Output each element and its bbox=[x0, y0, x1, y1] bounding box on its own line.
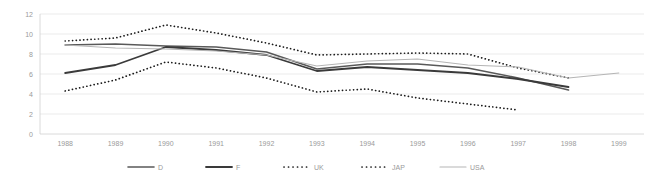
y-tick-label: 4 bbox=[29, 91, 33, 98]
x-tick-label: 1996 bbox=[460, 140, 476, 147]
y-tick-label: 0 bbox=[29, 131, 33, 138]
x-tick-label: 1993 bbox=[309, 140, 325, 147]
y-tick-label: 12 bbox=[25, 11, 33, 18]
series-line-jap bbox=[65, 62, 518, 110]
x-tick-label: 1988 bbox=[57, 140, 73, 147]
x-tick-label: 1989 bbox=[108, 140, 124, 147]
line-chart: 024681012 198819891990199119921993199419… bbox=[0, 0, 649, 181]
legend-label-d: D bbox=[158, 164, 163, 171]
x-tick-label: 1992 bbox=[259, 140, 275, 147]
chart-canvas: 024681012 198819891990199119921993199419… bbox=[0, 0, 649, 181]
x-tick-label: 1991 bbox=[208, 140, 224, 147]
series-line-usa bbox=[65, 45, 619, 78]
x-tick-label: 1995 bbox=[410, 140, 426, 147]
y-tick-label: 8 bbox=[29, 51, 33, 58]
y-tick-label: 2 bbox=[29, 111, 33, 118]
x-tick-label: 1997 bbox=[510, 140, 526, 147]
series-group bbox=[65, 25, 619, 110]
series-line-f bbox=[65, 47, 568, 87]
y-tick-label: 6 bbox=[29, 71, 33, 78]
x-tick-label: 1990 bbox=[158, 140, 174, 147]
x-axis-labels-group: 1988198919901991199219931994199519961997… bbox=[57, 140, 626, 147]
legend-label-jap: JAP bbox=[392, 164, 405, 171]
y-axis-labels-group: 024681012 bbox=[25, 11, 33, 138]
series-line-d bbox=[65, 44, 568, 90]
y-tick-label: 10 bbox=[25, 31, 33, 38]
x-tick-label: 1998 bbox=[561, 140, 577, 147]
x-tick-label: 1994 bbox=[359, 140, 375, 147]
legend-label-usa: USA bbox=[470, 164, 485, 171]
legend-group: DFUKJAPUSA bbox=[128, 164, 485, 171]
gridlines-group bbox=[40, 14, 644, 134]
legend-label-uk: UK bbox=[314, 164, 324, 171]
x-tick-label: 1999 bbox=[611, 140, 627, 147]
legend-label-f: F bbox=[236, 164, 240, 171]
series-line-uk bbox=[65, 25, 568, 78]
